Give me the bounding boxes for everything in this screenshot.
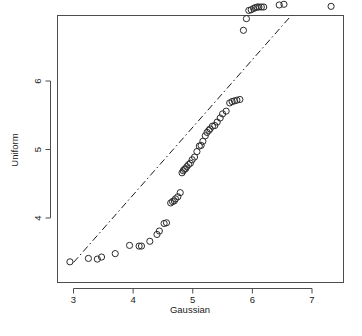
y-tick-label: 6 bbox=[32, 78, 43, 83]
x-tick-label: 7 bbox=[309, 294, 314, 305]
y-axis-title: Uniform bbox=[9, 133, 20, 166]
x-tick-label: 5 bbox=[190, 294, 195, 305]
plot-canvas: 34567 Gaussian 456 Uniform bbox=[0, 0, 362, 336]
x-axis-title: Gaussian bbox=[170, 304, 210, 315]
y-tick-label: 5 bbox=[32, 147, 43, 152]
y-tick-label: 4 bbox=[32, 215, 43, 220]
x-tick-label: 3 bbox=[71, 294, 76, 305]
x-tick-label: 6 bbox=[250, 294, 255, 305]
qq-plot-figure: 34567 Gaussian 456 Uniform bbox=[0, 0, 362, 336]
x-tick-label: 4 bbox=[130, 294, 135, 305]
